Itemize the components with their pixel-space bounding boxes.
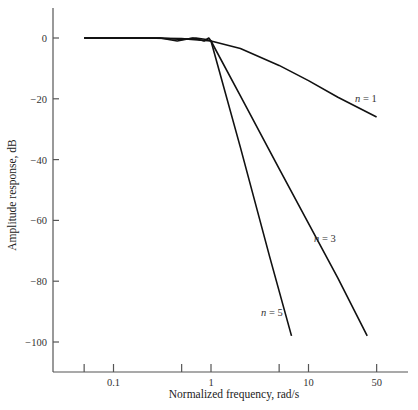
y-tick-label: −40: [31, 155, 47, 166]
y-tick-label: −80: [31, 276, 47, 287]
x-tick-label: 50: [371, 377, 382, 388]
curve-labels: n = 1n = 3n = 5: [261, 93, 377, 318]
x-tick-label: 1: [208, 377, 213, 388]
curve-n5: [84, 38, 291, 336]
x-tick-label: 10: [303, 377, 314, 388]
curve-label: n = 3: [314, 233, 336, 244]
curves: [84, 38, 377, 336]
x-axis-title: Normalized frequency, rad/s: [169, 388, 300, 401]
y-ticks: 0−20−40−60−80−100: [25, 33, 59, 348]
y-tick-label: −100: [25, 337, 47, 348]
curve-label: n = 1: [355, 93, 377, 104]
curve-label: n = 5: [261, 307, 283, 318]
curve-n3: [84, 38, 367, 336]
y-tick-label: −60: [31, 215, 47, 226]
x-ticks: 0.111050: [84, 364, 382, 388]
y-tick-label: −20: [31, 94, 47, 105]
axes: [53, 8, 408, 372]
chart: 0−20−40−60−80−100 0.111050 n = 1n = 3n =…: [0, 0, 418, 410]
y-axis-title: Amplitude response, dB: [6, 139, 19, 251]
x-tick-label: 0.1: [107, 377, 120, 388]
y-tick-label: 0: [42, 33, 47, 44]
